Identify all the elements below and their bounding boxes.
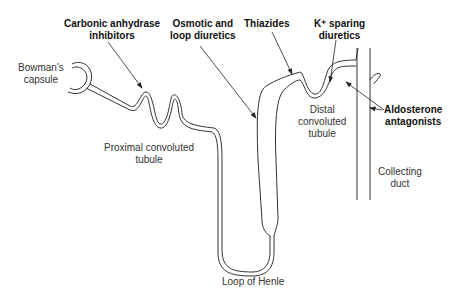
loop-ascending-outer	[257, 48, 358, 236]
label-loop-of-henle: Loop of Henle	[222, 276, 284, 288]
aldosterone-arrow-dct	[346, 82, 384, 110]
label-thiazides: Thiazides	[244, 18, 290, 30]
loop-descending-inner	[218, 160, 274, 276]
label-bowmans-capsule: Bowman's capsule	[18, 62, 64, 86]
label-aldosterone-antagonists: Aldosterone antagonists	[384, 104, 442, 128]
label-proximal-convoluted-tubule: Proximal convoluted tubule	[104, 142, 194, 166]
label-carbonic-anhydrase-inhibitors: Carbonic anhydrase inhibitors	[64, 18, 160, 42]
loop-descending-outer	[222, 160, 270, 272]
thiazides-arrow	[272, 32, 292, 74]
osmotic-loop-arrow	[200, 46, 256, 118]
aldosterone-arrow-cd	[370, 108, 382, 110]
label-osmotic-loop-diuretics: Osmotic and loop diuretics	[170, 18, 236, 42]
nephron-diagram	[0, 0, 459, 296]
k-sparing-arrow	[330, 40, 336, 82]
label-k-sparing-diuretics: K⁺ sparing diuretics	[314, 18, 365, 42]
loop-ascending-inner	[274, 66, 356, 236]
collecting-duct-branch	[370, 73, 380, 84]
label-collecting-duct: Collecting duct	[378, 166, 422, 190]
label-distal-convoluted-tubule: Distal convoluted tubule	[298, 104, 346, 140]
carbonic-anhydrase-arrow	[108, 42, 142, 88]
